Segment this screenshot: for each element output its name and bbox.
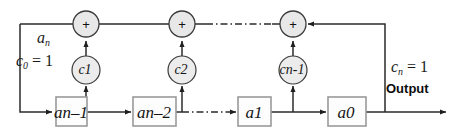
delay-box [238,97,271,126]
adder-node [73,11,99,37]
annotation-base: a [37,29,45,46]
delay-box [56,97,87,126]
annotation-subscript: 0 [23,60,28,71]
delay-box [133,97,176,126]
annotation-c0-equals-one: c0 = 1 [16,53,53,69]
coefficient-node [279,56,307,84]
annotation-equals: = 1 [403,58,428,75]
annotation-subscript: n [45,37,50,48]
coefficient-nodes [72,56,307,84]
coefficient-node [72,56,100,84]
delay-box [328,97,366,126]
annotation-subscript: n [398,66,403,77]
output-label: Output [386,82,429,95]
diagram-canvas [0,0,454,133]
coefficient-node [168,56,196,84]
adder-node [280,11,306,37]
adder-node [169,11,195,37]
annotation-input-gain-an: an [37,30,50,46]
annotation-cn-equals-one: cn = 1 [391,59,428,75]
annotation-equals: = 1 [28,52,53,69]
signal-flow-diagram: + + + c1 c2 cn-1 an–1 an–2 a1 a0 an c0 =… [0,0,454,133]
